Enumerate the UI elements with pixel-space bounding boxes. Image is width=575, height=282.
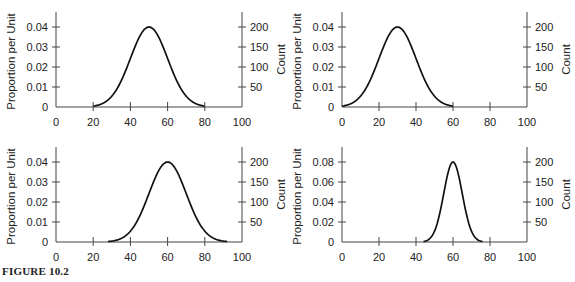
y2-tick-label: 150 [535, 176, 553, 188]
y2-tick-label: 100 [250, 196, 268, 208]
chart-panel-1: 00.010.020.030.0450100150200020406080100… [5, 12, 287, 128]
x-tick-label: 20 [373, 116, 385, 128]
y-tick-label: 0.04 [313, 21, 334, 33]
x-tick-label: 100 [518, 116, 536, 128]
y-tick-label: 0.06 [313, 176, 334, 188]
x-tick-label: 0 [53, 116, 59, 128]
y2-axis-label: Count [275, 43, 287, 74]
y-tick-label: 0 [328, 101, 334, 113]
x-tick-label: 60 [447, 116, 459, 128]
y-tick-label: 0.03 [313, 41, 334, 53]
x-tick-label: 40 [410, 251, 422, 263]
x-tick-label: 40 [124, 116, 136, 128]
y-tick-label: 0.02 [27, 61, 48, 73]
y2-tick-label: 50 [250, 81, 262, 93]
x-tick-label: 100 [518, 251, 536, 263]
y-axis-label: Proportion per Unit [5, 147, 17, 244]
x-tick-label: 40 [124, 251, 136, 263]
x-tick-label: 100 [233, 251, 251, 263]
y-tick-label: 0.01 [27, 216, 48, 228]
y-axis-label: Proportion per Unit [291, 147, 303, 244]
y-tick-label: 0 [42, 236, 48, 248]
y2-tick-label: 100 [535, 61, 553, 73]
x-tick-label: 0 [53, 251, 59, 263]
y-tick-label: 0.02 [313, 61, 334, 73]
y2-tick-label: 50 [250, 216, 262, 228]
y-tick-label: 0.02 [27, 196, 48, 208]
y-tick-label: 0.03 [27, 176, 48, 188]
x-tick-label: 40 [410, 116, 422, 128]
x-tick-label: 80 [484, 251, 496, 263]
y2-tick-label: 200 [535, 156, 553, 168]
y2-tick-label: 50 [535, 216, 547, 228]
normal-curve [108, 162, 227, 242]
y2-tick-label: 150 [535, 41, 553, 53]
y2-tick-label: 150 [250, 176, 268, 188]
y2-axis-label: Count [275, 178, 287, 209]
chart-panel-3: 00.010.020.030.0450100150200020406080100… [5, 147, 287, 263]
figure-chart-grid: 00.010.020.030.0450100150200020406080100… [0, 0, 575, 282]
y-tick-label: 0.02 [313, 216, 334, 228]
x-tick-label: 0 [339, 251, 345, 263]
y2-tick-label: 100 [535, 196, 553, 208]
y-axis-label: Proportion per Unit [291, 12, 303, 109]
normal-curve [423, 162, 482, 242]
x-tick-label: 80 [199, 251, 211, 263]
x-tick-label: 20 [373, 251, 385, 263]
y-tick-label: 0.03 [27, 41, 48, 53]
y2-tick-label: 100 [250, 61, 268, 73]
chart-panel-2: 00.010.020.030.0450100150200020406080100… [291, 12, 572, 128]
y2-tick-label: 200 [250, 156, 268, 168]
x-tick-label: 80 [484, 116, 496, 128]
y-tick-label: 0.04 [313, 196, 334, 208]
x-tick-label: 80 [199, 116, 211, 128]
y-tick-label: 0 [328, 236, 334, 248]
y-tick-label: 0.04 [27, 21, 48, 33]
y-tick-label: 0.01 [313, 81, 334, 93]
y-tick-label: 0.08 [313, 156, 334, 168]
x-tick-label: 0 [339, 116, 345, 128]
x-tick-label: 60 [161, 116, 173, 128]
chart-panel-4: 00.020.040.060.0850100150200020406080100… [291, 147, 572, 263]
y2-tick-label: 50 [535, 81, 547, 93]
y2-tick-label: 200 [535, 21, 553, 33]
y-tick-label: 0 [42, 101, 48, 113]
x-tick-label: 100 [233, 116, 251, 128]
x-tick-label: 60 [447, 251, 459, 263]
figure-caption: FIGURE 10.2 [2, 265, 69, 277]
y-tick-label: 0.04 [27, 156, 48, 168]
y2-tick-label: 150 [250, 41, 268, 53]
y-tick-label: 0.01 [27, 81, 48, 93]
y-axis-label: Proportion per Unit [5, 12, 17, 109]
x-tick-label: 20 [87, 251, 99, 263]
x-tick-label: 60 [161, 251, 173, 263]
normal-curve [342, 27, 453, 106]
y2-tick-label: 200 [250, 21, 268, 33]
normal-curve [93, 27, 205, 106]
x-tick-label: 20 [87, 116, 99, 128]
y2-axis-label: Count [560, 43, 572, 74]
y2-axis-label: Count [560, 178, 572, 209]
